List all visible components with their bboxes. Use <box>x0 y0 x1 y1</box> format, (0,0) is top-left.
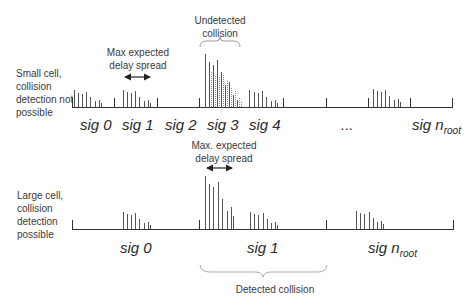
diagram-graphics <box>0 0 469 308</box>
top-multipath-sig1 <box>124 90 151 107</box>
top-multipath-sign <box>374 89 401 107</box>
bottom-multipath-sign <box>357 211 384 229</box>
bottom-multipath-sig0 <box>124 212 151 229</box>
top-collision-sig3 <box>206 54 251 107</box>
bottom-collision-brace-icon <box>200 265 327 277</box>
bottom-collision-sig1-user-b <box>251 212 278 229</box>
bottom-collision-sig1-user-a <box>206 176 234 229</box>
top-multipath-sig4 <box>250 90 278 107</box>
top-multipath-sig0 <box>75 90 102 107</box>
top-collision-brace-icon <box>200 37 240 47</box>
